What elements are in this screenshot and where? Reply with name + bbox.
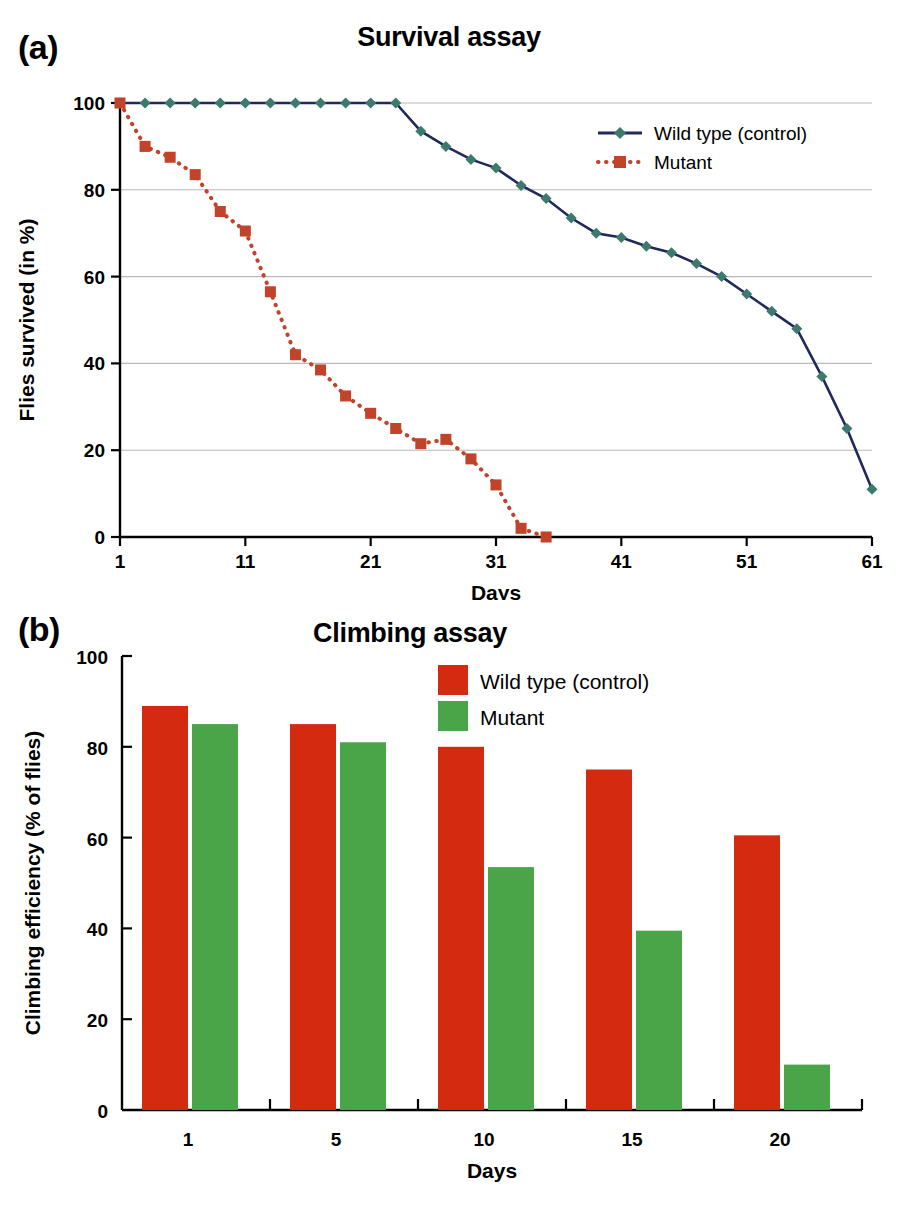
data-point-marker xyxy=(240,226,251,237)
data-point-marker xyxy=(265,98,276,109)
x-tick-label: 11 xyxy=(235,551,256,572)
series-line xyxy=(120,103,546,537)
data-point-marker xyxy=(340,98,351,109)
data-point-marker xyxy=(867,484,878,495)
series-line xyxy=(120,103,872,489)
panel-climbing-assay: (b) Climbing assay 02040608010015101520D… xyxy=(0,600,898,1228)
series-wild-type xyxy=(115,98,878,495)
figure-root: (a) Survival assay 020406080100111213141… xyxy=(0,0,898,1228)
data-point-marker xyxy=(115,98,126,109)
x-tick-label: 51 xyxy=(736,551,758,572)
climbing-assay-title: Climbing assay xyxy=(30,618,790,649)
data-point-marker xyxy=(240,98,251,109)
y-tick-label: 40 xyxy=(87,919,108,940)
x-tick-label: 41 xyxy=(611,551,633,572)
x-axis-title: Days xyxy=(471,581,521,600)
data-point-marker xyxy=(365,408,376,419)
bar-wild-type xyxy=(290,724,336,1110)
y-tick-label: 100 xyxy=(76,647,108,668)
y-tick-label: 80 xyxy=(87,738,108,759)
data-point-marker xyxy=(491,479,502,490)
data-point-marker xyxy=(140,98,151,109)
legend-label: Wild type (control) xyxy=(654,123,807,144)
y-tick-label: 60 xyxy=(87,829,108,850)
data-point-marker xyxy=(140,141,151,152)
bar-mutant xyxy=(192,724,238,1110)
data-point-marker xyxy=(440,434,451,445)
climbing-assay-chart: 02040608010015101520DaysClimbing efficie… xyxy=(0,600,898,1228)
data-point-marker xyxy=(190,98,201,109)
data-point-marker xyxy=(265,286,276,297)
data-point-marker xyxy=(165,152,176,163)
data-point-marker xyxy=(516,523,527,534)
y-axis-title: Flies survived (in %) xyxy=(15,218,38,421)
bar-mutant xyxy=(340,742,386,1110)
legend-marker-sample xyxy=(614,127,626,139)
data-point-marker xyxy=(465,154,476,165)
data-point-marker xyxy=(315,98,326,109)
x-tick-label: 10 xyxy=(473,1129,494,1150)
data-point-marker xyxy=(215,98,226,109)
data-point-marker xyxy=(616,232,627,243)
y-tick-label: 20 xyxy=(87,1010,108,1031)
legend-swatch xyxy=(438,701,468,731)
bar-wild-type xyxy=(586,770,632,1111)
bar-mutant xyxy=(636,931,682,1110)
y-tick-label: 100 xyxy=(73,93,105,114)
legend: Wild type (control)Mutant xyxy=(438,665,649,731)
bar-wild-type xyxy=(438,747,484,1110)
x-tick-label: 61 xyxy=(861,551,883,572)
x-tick-label: 5 xyxy=(331,1129,342,1150)
x-tick-label: 31 xyxy=(485,551,507,572)
legend-label: Wild type (control) xyxy=(480,670,649,693)
y-tick-label: 60 xyxy=(84,267,105,288)
y-axis-title: Climbing efficiency (% of flies) xyxy=(21,731,44,1036)
data-point-marker xyxy=(190,169,201,180)
data-point-marker xyxy=(390,423,401,434)
y-tick-label: 0 xyxy=(97,1101,108,1122)
x-tick-label: 1 xyxy=(183,1129,194,1150)
bar-mutant xyxy=(488,867,534,1110)
y-tick-label: 40 xyxy=(84,353,105,374)
legend-label: Mutant xyxy=(480,706,544,729)
y-tick-label: 0 xyxy=(94,527,105,548)
data-point-marker xyxy=(691,258,702,269)
survival-assay-title: Survival assay xyxy=(0,22,898,53)
y-tick-label: 20 xyxy=(84,440,105,461)
data-point-marker xyxy=(365,98,376,109)
x-tick-label: 20 xyxy=(769,1129,790,1150)
bar-mutant xyxy=(784,1065,830,1110)
panel-survival-assay: (a) Survival assay 020406080100111213141… xyxy=(0,0,898,600)
bar-wild-type xyxy=(142,706,188,1110)
x-tick-label: 15 xyxy=(621,1129,643,1150)
data-point-marker xyxy=(215,206,226,217)
data-point-marker xyxy=(315,364,326,375)
data-point-marker xyxy=(541,532,552,543)
legend: Wild type (control)Mutant xyxy=(598,123,807,173)
data-point-marker xyxy=(415,438,426,449)
data-point-marker xyxy=(666,247,677,258)
legend-marker-sample xyxy=(614,156,626,168)
data-point-marker xyxy=(340,390,351,401)
data-point-marker xyxy=(290,98,301,109)
data-point-marker xyxy=(841,423,852,434)
data-point-marker xyxy=(816,371,827,382)
x-tick-label: 21 xyxy=(360,551,382,572)
y-tick-label: 80 xyxy=(84,180,105,201)
bar-wild-type xyxy=(734,835,780,1110)
legend-label: Mutant xyxy=(654,152,713,173)
data-point-marker xyxy=(641,241,652,252)
x-axis-title: Days xyxy=(467,1159,517,1182)
data-point-marker xyxy=(465,453,476,464)
data-point-marker xyxy=(165,98,176,109)
legend-swatch xyxy=(438,665,468,695)
data-point-marker xyxy=(290,349,301,360)
x-tick-label: 1 xyxy=(115,551,126,572)
survival-assay-chart: 0204060801001112131415161DaysFlies survi… xyxy=(0,0,898,600)
